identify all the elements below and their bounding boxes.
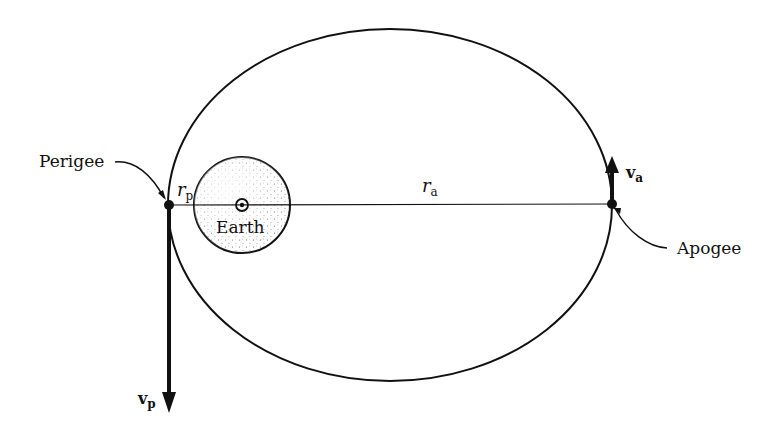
perigee-leader-line	[115, 162, 164, 198]
perigee-label: Perigee	[39, 151, 104, 171]
earth-label: Earth	[216, 217, 265, 237]
apogee-label: Apogee	[676, 238, 741, 258]
v-p-label: vp	[137, 389, 156, 411]
orbit-diagram: Perigee Apogee Earth rp ra vp va	[0, 0, 779, 430]
r-a-label: ra	[422, 175, 438, 199]
apogee-leader-line	[616, 210, 667, 248]
r-p-label: rp	[177, 179, 194, 203]
v-p-arrowhead-icon	[162, 392, 176, 413]
v-a-label: va	[625, 163, 643, 185]
